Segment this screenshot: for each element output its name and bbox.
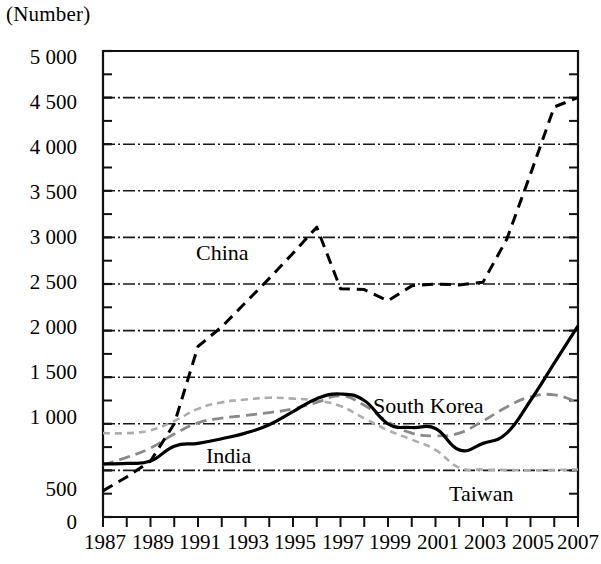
plot-canvas <box>0 0 601 564</box>
gridlines-group <box>103 98 578 471</box>
series-line-india <box>103 326 578 464</box>
data-series-group <box>103 98 578 491</box>
line-chart: (Number) 5 000 4 500 4 000 3 500 3 000 2… <box>0 0 601 564</box>
